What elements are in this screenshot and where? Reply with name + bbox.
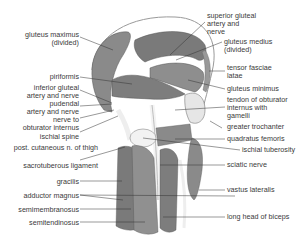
biceps-long-head-shape — [160, 148, 178, 232]
label-sacrotuberous: sacrotuberous ligament — [0, 162, 98, 170]
label-gluteus-maximus: gluteus maximus (divided) — [0, 31, 79, 47]
vastus-lateralis-shape — [187, 138, 202, 200]
label-tendon-obturator: tendon of obturator internus with gamell… — [227, 96, 288, 120]
label-semimembranosus: semimembranosus — [0, 206, 79, 214]
label-greater-trochanter: greater trochanter — [227, 123, 284, 131]
label-sciatic-nerve: sciatic nerve — [227, 161, 267, 169]
sacrotuberous-shape — [118, 110, 130, 140]
label-vastus-lateralis: vastus lateralis — [227, 186, 275, 194]
label-tensor-fasciae: tensor fasciae latae — [227, 64, 272, 80]
gluteus-medius-shape — [134, 32, 206, 62]
label-adductor-magnus: adductor magnus — [0, 192, 79, 200]
quadratus-femoris-shape — [156, 124, 192, 146]
label-inferior-gluteal: inferior gluteal artery and nerve — [0, 84, 79, 100]
label-semitendinosus: semitendinosus — [0, 219, 79, 227]
label-piriformis: piriformis — [0, 73, 79, 81]
label-gracilis: gracilis — [0, 178, 79, 186]
label-post-cutaneous: post. cutaneous n. of thigh — [0, 144, 98, 152]
label-gluteus-minimus: gluteus minimus — [227, 85, 279, 93]
label-gluteus-medius: gluteus medius (divided) — [224, 38, 272, 54]
semitendinosus-shape — [132, 146, 158, 235]
label-pudendal: pudendal artery and nerve — [0, 100, 79, 116]
label-nerve-obturator: nerve to obturator internus — [0, 116, 79, 132]
label-ischial-tuberosity: ischial tuberosity — [242, 146, 295, 154]
label-quadratus-femoris: quadratus femoris — [227, 135, 285, 143]
label-ischial-spine: ischial spine — [0, 133, 79, 141]
label-long-head-biceps: long head of biceps — [227, 213, 289, 221]
label-superior-gluteal: superior gluteal artery and nerve — [207, 12, 256, 36]
